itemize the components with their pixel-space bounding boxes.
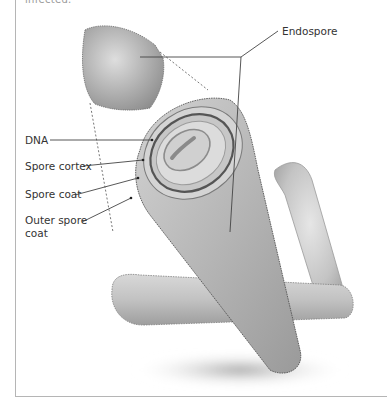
label-endospore: Endospore [282, 25, 337, 38]
leader-endospore [140, 31, 278, 57]
leader-outer-spore-coat [82, 198, 131, 222]
spore-cap-fragment [82, 26, 163, 110]
label-spore-cortex: Spore cortex [25, 160, 92, 173]
label-spore-coat: Spore coat [25, 188, 81, 201]
rod-shadow [130, 352, 350, 388]
label-outer-spore-coat-line1: Outer spore [25, 214, 87, 227]
leader-spore-cortex [83, 160, 143, 166]
label-outer-spore-coat-line2: coat [25, 227, 48, 240]
leader-spore-coat [75, 178, 138, 195]
explode-line-right [160, 52, 208, 90]
sectioned-bacterium [126, 88, 301, 373]
label-dna: DNA [25, 134, 48, 147]
